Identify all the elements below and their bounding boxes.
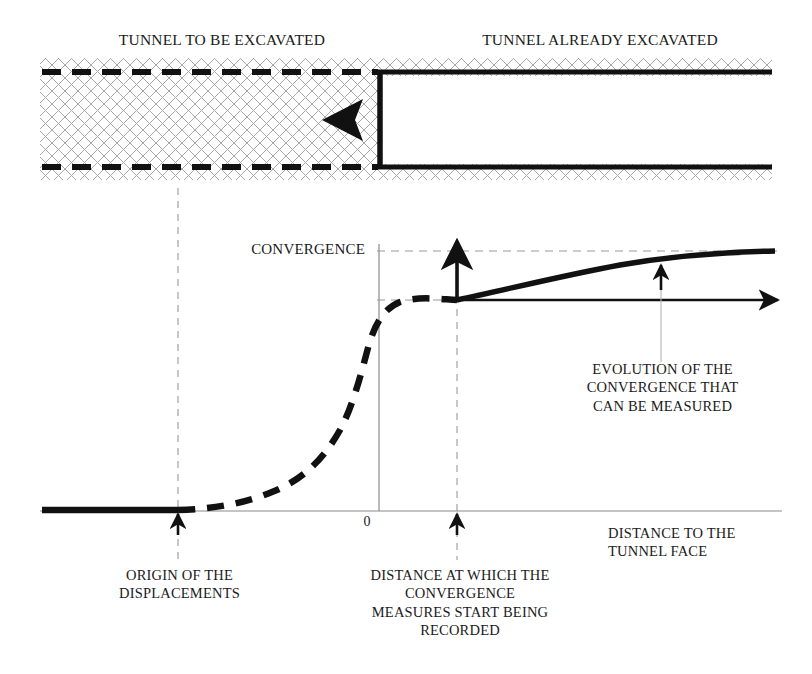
figure-canvas: TUNNEL TO BE EXCAVATED TUNNEL ALREADY EX… [0,0,812,674]
annotation-distance-measures-start: DISTANCE AT WHICH THE CONVERGENCE MEASUR… [340,566,580,639]
rock-mass-hatching [40,58,772,180]
title-tunnel-to-be-excavated: TUNNEL TO BE EXCAVATED [72,30,372,50]
curve-segment-measured [457,251,775,300]
tunnel-schematic [40,58,772,180]
curve-segment-not-measured [178,298,457,510]
y-axis-label-convergence: CONVERGENCE [205,240,365,259]
x-axis-tick-zero: 0 [355,513,379,531]
annotation-origin-of-displacements: ORIGIN OF THE DISPLACEMENTS [72,566,287,603]
title-tunnel-already-excavated: TUNNEL ALREADY EXCAVATED [440,30,760,50]
x-axis-label-distance-to-tunnel-face: DISTANCE TO THE TUNNEL FACE [608,524,798,561]
annotation-evolution-of-convergence: EVOLUTION OF THE CONVERGENCE THAT CAN BE… [540,360,785,415]
